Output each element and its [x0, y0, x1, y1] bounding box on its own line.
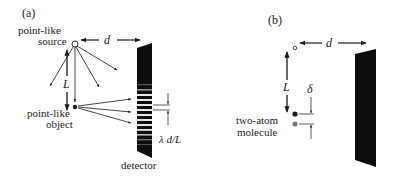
object-rays	[78, 99, 131, 123]
panel-b-label: (b)	[268, 13, 282, 27]
molecule-label-line1: two-atom	[236, 114, 279, 126]
fringe-spacing-label: λ d/L	[158, 133, 181, 145]
panel-b: (b) d L δ two-atom molecule	[236, 13, 376, 167]
detector-label: detector	[121, 159, 157, 171]
separation-label: δ	[307, 82, 313, 96]
object-label-line2: object	[46, 118, 73, 130]
detector-b	[355, 49, 376, 167]
length-label-b: L	[282, 80, 290, 94]
fringe-spacing-marker	[153, 93, 170, 125]
diagram: (a) point-like source d L	[0, 0, 399, 181]
atom-2-icon	[292, 121, 297, 126]
point-object-icon	[73, 105, 77, 109]
length-label-a: L	[62, 77, 70, 91]
atom-1-icon	[292, 111, 297, 116]
molecule-label-line2: molecule	[237, 126, 277, 138]
distance-arrow-a: d	[81, 33, 140, 47]
distance-label-a: d	[104, 33, 111, 47]
source-rays	[50, 46, 117, 102]
distance-arrow-b: d	[300, 36, 366, 50]
distance-label-b: d	[326, 36, 333, 50]
detector-a	[136, 43, 154, 158]
length-arrow-b: L	[282, 52, 290, 112]
source-label-line2: source	[38, 35, 67, 47]
separation-marker	[299, 97, 314, 139]
point-source-icon-b	[293, 46, 297, 50]
panel-a-label: (a)	[22, 6, 35, 20]
panel-a: (a) point-like source d L	[18, 6, 181, 171]
